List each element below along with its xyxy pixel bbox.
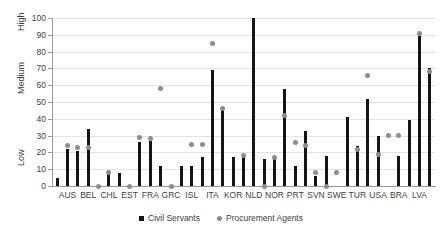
x-tick-label-nor: NOR: [265, 189, 284, 201]
bar-civil-servants: [377, 136, 380, 186]
bar-civil-servants: [87, 129, 90, 186]
circle-marker-icon: [217, 216, 222, 221]
bar-civil-servants: [66, 149, 69, 186]
bar-civil-servants: [252, 18, 255, 186]
x-tick-label-nld: NLD: [245, 189, 262, 201]
y-tick-label: 40: [0, 115, 46, 124]
x-tick-label-ita: ITA: [206, 189, 219, 201]
dot-procurement-agents: [189, 142, 194, 147]
x-tick-label-usa: USA: [369, 189, 386, 201]
bar-civil-servants: [418, 36, 421, 186]
dot-procurement-agents: [137, 135, 142, 140]
x-tick-label-bel: BEL: [80, 189, 96, 201]
x-tick-label-lva: LVA: [412, 189, 427, 201]
x-axis-labels: AUSBELCHLESTFRAGRCISLITAKORNLDNORPRTSVNS…: [52, 189, 435, 203]
legend-label-procurement-agents: Procurement Agents: [226, 213, 303, 223]
dot-procurement-agents: [313, 170, 318, 175]
x-tick-label-grc: GRC: [162, 189, 181, 201]
bar-civil-servants: [242, 157, 245, 186]
bar-civil-servants: [118, 173, 121, 186]
bar-civil-servants: [149, 141, 152, 186]
bar-civil-servants: [397, 156, 400, 186]
dot-procurement-agents: [376, 152, 381, 157]
y-tick-label: 10: [0, 165, 46, 174]
dot-procurement-agents: [200, 142, 205, 147]
dot-procurement-agents: [272, 155, 277, 160]
bar-civil-servants: [76, 151, 79, 186]
x-axis-line: [52, 186, 436, 187]
dot-procurement-agents: [262, 184, 267, 189]
bar-civil-servants: [304, 131, 307, 186]
bar-civil-servants: [273, 159, 276, 186]
bar-civil-servants: [356, 146, 359, 186]
dot-procurement-agents: [293, 140, 298, 145]
dot-procurement-agents: [75, 145, 80, 150]
y-axis-band-label-low: Low: [16, 149, 26, 166]
bar-civil-servants: [283, 89, 286, 186]
y-tick-label: 80: [0, 48, 46, 57]
chart-legend: Civil Servants Procurement Agents: [0, 213, 442, 223]
dot-procurement-agents: [241, 153, 246, 158]
y-tick-label: 50: [0, 98, 46, 107]
bar-civil-servants: [56, 178, 59, 186]
bar-civil-servants: [232, 157, 235, 186]
data-series-layer: [52, 18, 435, 186]
bar-civil-servants: [408, 120, 411, 186]
y-tick-label: 90: [0, 31, 46, 40]
dot-procurement-agents: [148, 136, 153, 141]
chart-container: 0102030405060708090100 LowMediumHigh AUS…: [0, 0, 442, 239]
bar-civil-servants: [201, 157, 204, 186]
dot-procurement-agents: [127, 184, 132, 189]
bar-civil-servants: [263, 159, 266, 186]
bar-civil-servants: [221, 110, 224, 186]
x-tick-label-est: EST: [121, 189, 138, 201]
x-tick-label-svn: SVN: [307, 189, 324, 201]
x-tick-label-isl: ISL: [185, 189, 198, 201]
bar-civil-servants: [428, 68, 431, 186]
bar-civil-servants: [346, 117, 349, 186]
bar-civil-servants: [366, 99, 369, 186]
dot-procurement-agents: [106, 170, 111, 175]
bar-civil-servants: [211, 70, 214, 186]
dot-procurement-agents: [86, 145, 91, 150]
dot-procurement-agents: [169, 184, 174, 189]
dot-procurement-agents: [210, 41, 215, 46]
dot-procurement-agents: [96, 184, 101, 189]
dot-procurement-agents: [427, 69, 432, 74]
dot-procurement-agents: [324, 184, 329, 189]
dot-procurement-agents: [303, 143, 308, 148]
bar-civil-servants: [294, 166, 297, 186]
bar-civil-servants: [325, 156, 328, 186]
x-tick-label-fra: FRA: [142, 189, 159, 201]
legend-item-civil-servants[interactable]: Civil Servants: [139, 213, 200, 223]
x-tick-label-kor: KOR: [224, 189, 242, 201]
bar-civil-servants: [180, 166, 183, 186]
legend-item-procurement-agents[interactable]: Procurement Agents: [217, 213, 303, 223]
y-axis-band-label-medium: Medium: [16, 62, 26, 94]
bar-civil-servants: [190, 166, 193, 186]
legend-label-civil-servants: Civil Servants: [148, 213, 200, 223]
dot-procurement-agents: [220, 106, 225, 111]
y-tick-label: 0: [0, 182, 46, 191]
square-marker-icon: [139, 216, 144, 221]
dot-procurement-agents: [282, 113, 287, 118]
x-tick-label-tur: TUR: [349, 189, 366, 201]
x-tick-label-swe: SWE: [327, 189, 346, 201]
dot-procurement-agents: [65, 143, 70, 148]
y-tick-label: 30: [0, 132, 46, 141]
bar-civil-servants: [138, 142, 141, 186]
dot-procurement-agents: [158, 86, 163, 91]
x-tick-label-aus: AUS: [59, 189, 76, 201]
bar-civil-servants: [159, 166, 162, 186]
x-tick-label-chl: CHL: [100, 189, 117, 201]
dot-procurement-agents: [355, 147, 360, 152]
dot-procurement-agents: [417, 31, 422, 36]
x-tick-label-bra: BRA: [390, 189, 407, 201]
dot-procurement-agents: [386, 133, 391, 138]
bar-civil-servants: [314, 176, 317, 186]
dot-procurement-agents: [396, 133, 401, 138]
dot-procurement-agents: [365, 73, 370, 78]
dot-procurement-agents: [334, 170, 339, 175]
y-axis-band-label-high: High: [16, 13, 26, 32]
x-tick-label-prt: PRT: [287, 189, 304, 201]
